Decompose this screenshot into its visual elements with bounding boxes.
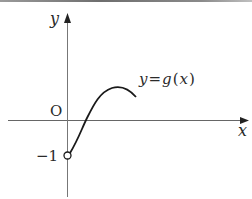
- x-axis-label: x: [238, 121, 247, 140]
- graph-svg: y x O −1 y=g(x): [0, 0, 252, 199]
- svg-text:y=g(x): y=g(x): [138, 70, 195, 88]
- y-axis-label: y: [49, 9, 60, 28]
- curve-label-fn: g: [162, 70, 172, 88]
- open-point-marker: [64, 152, 71, 159]
- curve-label-eq: =: [148, 70, 161, 88]
- graph-figure: y x O −1 y=g(x): [0, 0, 252, 199]
- curve-label: y=g(x): [138, 70, 195, 88]
- y-intercept-label: −1: [36, 147, 58, 165]
- y-axis-arrow-icon: [64, 13, 71, 23]
- curve-label-lhs: y: [138, 70, 148, 88]
- origin-label: O: [50, 102, 62, 120]
- curve-label-close-paren: ): [189, 70, 195, 88]
- curve-label-open-paren: (: [173, 70, 179, 88]
- curve-label-arg: x: [180, 70, 189, 88]
